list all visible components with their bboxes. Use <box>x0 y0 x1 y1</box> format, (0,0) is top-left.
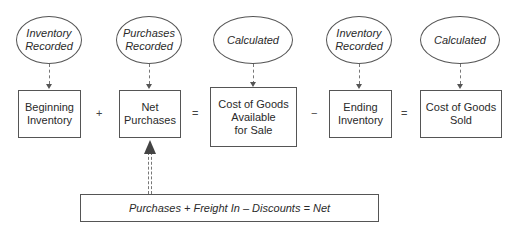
connector-4 <box>359 64 360 84</box>
box-cost-of-goods-sold: Cost of Goods Sold <box>420 90 502 138</box>
ellipse-calculated-1: Calculated <box>213 16 293 64</box>
formula-connector-left <box>148 152 149 194</box>
box-ending-inventory: Ending Inventory <box>329 90 392 138</box>
operator-minus: − <box>311 107 317 119</box>
operator-equals-1: = <box>192 107 198 119</box>
connector-5 <box>460 64 461 84</box>
ellipse-inventory-recorded-2: Inventory Recorded <box>326 16 392 64</box>
arrowhead-2 <box>146 84 152 89</box>
formula-connector-right <box>151 152 152 194</box>
connector-2 <box>149 64 150 84</box>
arrowhead-1 <box>46 84 52 89</box>
box-net-purchases: Net Purchases <box>119 90 181 138</box>
box-beginning-inventory: Beginning Inventory <box>18 90 81 138</box>
box-cost-of-goods-available: Cost of Goods Available for Sale <box>210 87 297 147</box>
ellipse-purchases-recorded: Purchases Recorded <box>116 16 182 64</box>
upward-arrow-icon <box>144 140 156 154</box>
operator-plus: + <box>96 107 102 119</box>
formula-box: Purchases + Freight In – Discounts = Net <box>80 194 379 222</box>
operator-equals-2: = <box>401 107 407 119</box>
connector-3 <box>253 64 254 84</box>
ellipse-inventory-recorded-1: Inventory Recorded <box>16 16 82 64</box>
ellipse-calculated-2: Calculated <box>420 16 500 64</box>
connector-1 <box>49 64 50 84</box>
arrowhead-4 <box>356 84 362 89</box>
arrowhead-5 <box>457 84 463 89</box>
